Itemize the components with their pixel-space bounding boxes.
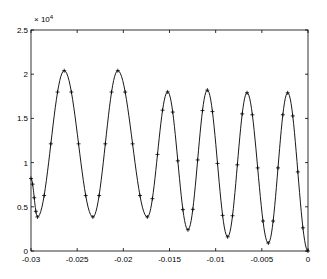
plot-area bbox=[31, 30, 308, 251]
y-tick-label: 2.5 bbox=[17, 26, 29, 35]
x-tick-label: -0.03 bbox=[22, 255, 41, 264]
y-tick-label: 1 bbox=[24, 159, 29, 168]
y-tick-label: 1.5 bbox=[17, 114, 29, 123]
x-tick-label: -0.02 bbox=[114, 255, 133, 264]
x-tick-label: 0 bbox=[306, 255, 311, 264]
y-multiplier-label: × 104 bbox=[34, 14, 54, 24]
x-tick-label: -0.005 bbox=[250, 255, 273, 264]
y-tick-label: 0 bbox=[24, 247, 29, 256]
x-tick-label: -0.01 bbox=[207, 255, 226, 264]
x-tick-label: -0.015 bbox=[158, 255, 181, 264]
line-chart: -0.03-0.025-0.02-0.015-0.01-0.0050 00.51… bbox=[0, 0, 327, 279]
y-tick-label: 0.5 bbox=[17, 203, 29, 212]
x-tick-label: -0.025 bbox=[66, 255, 89, 264]
y-tick-label: 2 bbox=[24, 70, 29, 79]
